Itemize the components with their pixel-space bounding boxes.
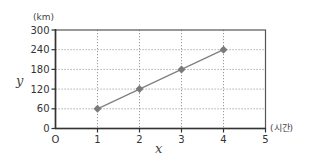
line-chart: 060120180240300 O12345 (km) (시간) y x: [0, 0, 309, 161]
y-tick-label: 120: [30, 84, 49, 95]
x-tick-label: 5: [262, 134, 268, 145]
y-tick-labels: 060120180240300: [30, 25, 55, 135]
y-tick-label: 0: [43, 123, 49, 134]
y-tick-label: 300: [30, 25, 49, 36]
data-point-marker: [94, 105, 102, 113]
data-line: [98, 50, 224, 109]
origin-label: O: [52, 134, 60, 145]
y-unit-label: (km): [33, 12, 54, 22]
y-tick-label: 180: [30, 64, 49, 75]
x-tick-label: 3: [178, 134, 184, 145]
y-tick-label: 60: [37, 103, 50, 114]
y-tick-label: 240: [30, 44, 49, 55]
x-tick-label: 2: [136, 134, 142, 145]
x-tick-label: 4: [220, 134, 226, 145]
data-point-marker: [136, 85, 144, 93]
data-point-marker: [220, 46, 228, 54]
x-tick-label: 1: [94, 134, 100, 145]
x-unit-label: (시간): [270, 123, 293, 133]
x-axis-label: x: [155, 141, 163, 156]
y-axis-label: y: [15, 73, 24, 88]
data-point-marker: [178, 65, 186, 73]
